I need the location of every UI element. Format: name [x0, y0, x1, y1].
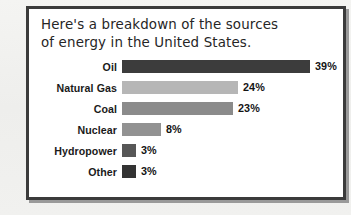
- page-title: Here's a breakdown of the sources of ene…: [41, 16, 333, 51]
- bar-value-label: 39%: [315, 60, 337, 72]
- bar: [122, 144, 136, 157]
- chart-row: Oil39%: [29, 59, 349, 80]
- bar-value-label: 24%: [243, 81, 265, 93]
- bar-track: [122, 123, 349, 136]
- bar-value-label: 23%: [238, 102, 260, 114]
- bar-category-label: Coal: [29, 103, 117, 115]
- bar: [122, 102, 233, 115]
- bar-chart: Oil39%Natural Gas24%Coal23%Nuclear8%Hydr…: [29, 59, 349, 185]
- bar-track: [122, 102, 349, 115]
- bar: [122, 165, 136, 178]
- chart-row: Natural Gas24%: [29, 80, 349, 101]
- chart-row: Nuclear8%: [29, 122, 349, 143]
- bar-category-label: Oil: [29, 61, 117, 73]
- chart-row: Other3%: [29, 164, 349, 185]
- bar-category-label: Hydropower: [29, 145, 117, 157]
- bar-value-label: 8%: [166, 123, 182, 135]
- bar-category-label: Nuclear: [29, 124, 117, 136]
- bar: [122, 81, 238, 94]
- bar-value-label: 3%: [141, 165, 157, 177]
- bar: [122, 123, 161, 136]
- bar-category-label: Natural Gas: [29, 82, 117, 94]
- bar-category-label: Other: [29, 166, 117, 178]
- panel-inner: Here's a breakdown of the sources of ene…: [29, 9, 343, 197]
- framed-panel: Here's a breakdown of the sources of ene…: [26, 6, 346, 200]
- chart-row: Hydropower3%: [29, 143, 349, 164]
- bar: [122, 60, 310, 73]
- energy-sources-infographic: Here's a breakdown of the sources of ene…: [0, 0, 351, 215]
- chart-row: Coal23%: [29, 101, 349, 122]
- bar-value-label: 3%: [141, 144, 157, 156]
- bar-track: [122, 81, 349, 94]
